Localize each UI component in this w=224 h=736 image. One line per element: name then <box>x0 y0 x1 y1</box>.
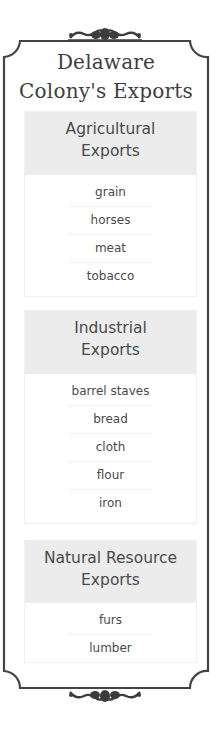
list-item: iron <box>25 489 196 517</box>
export-list: furs lumber <box>25 603 196 664</box>
section-header-line-1: Agricultural <box>29 118 192 140</box>
list-item: cloth <box>25 433 196 461</box>
title-line-2: Colony's Exports <box>4 77 208 106</box>
section-header: Natural Resource Exports <box>25 541 196 603</box>
top-ornament-icon <box>68 28 142 40</box>
title-line-1: Delaware <box>4 48 208 77</box>
section-header: Agricultural Exports <box>25 112 196 175</box>
bottom-ornament-icon <box>69 690 141 702</box>
list-item: horses <box>25 206 196 234</box>
list-item: lumber <box>25 634 196 662</box>
list-item: meat <box>25 234 196 262</box>
section-industrial: Industrial Exports barrel staves bread c… <box>24 310 197 524</box>
section-agricultural: Agricultural Exports grain horses meat t… <box>24 111 197 297</box>
list-item: grain <box>25 178 196 206</box>
list-item: tobacco <box>25 262 196 290</box>
section-natural-resource: Natural Resource Exports furs lumber <box>24 540 197 663</box>
list-item: furs <box>25 606 196 634</box>
export-list: barrel staves bread cloth flour iron <box>25 374 196 519</box>
section-header: Industrial Exports <box>25 311 196 374</box>
section-header-line-1: Natural Resource <box>29 547 192 569</box>
list-item: barrel staves <box>25 377 196 405</box>
list-item: bread <box>25 405 196 433</box>
list-item: flour <box>25 461 196 489</box>
section-header-line-1: Industrial <box>29 317 192 339</box>
section-header-line-2: Exports <box>29 140 192 162</box>
export-list: grain horses meat tobacco <box>25 175 196 292</box>
section-header-line-2: Exports <box>29 339 192 361</box>
section-header-line-2: Exports <box>29 569 192 591</box>
